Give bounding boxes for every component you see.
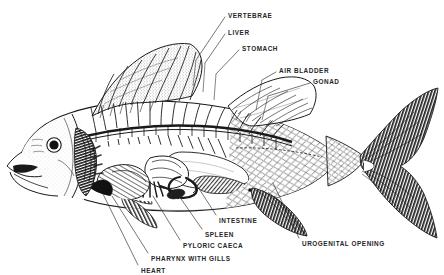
label-pyloric-caeca: PYLORIC CAECA [183, 243, 243, 249]
fish-body-group [7, 17, 438, 265]
pupil [49, 140, 58, 149]
label-liver: LIVER [228, 30, 250, 36]
caudal-fin [360, 88, 438, 238]
caudal-peduncle [326, 136, 366, 186]
label-vertebrae: VERTEBRAE [228, 13, 272, 19]
label-spleen: SPLEEN [205, 232, 234, 238]
leader-vertebrae [196, 17, 225, 60]
fish-anatomy-figure: VERTEBRAE LIVER STOMACH AIR BLADDER GONA… [0, 0, 444, 275]
label-pharynx-with-gills: PHARYNX WITH GILLS [151, 256, 231, 262]
label-stomach: STOMACH [242, 46, 278, 52]
leader-liver [205, 34, 225, 63]
leader-stomach [216, 50, 239, 74]
label-air-bladder: AIR BLADDER [279, 68, 329, 74]
soft-dorsal-fin [228, 77, 316, 126]
label-urogenital-opening: UROGENITAL OPENING [302, 241, 385, 247]
label-heart: HEART [141, 268, 166, 274]
label-intestine: INTESTINE [219, 218, 257, 224]
head [7, 113, 84, 200]
label-gonad: GONAD [313, 79, 340, 85]
leader-air-bladder [262, 72, 276, 80]
urogenital-opening-marker [248, 188, 252, 192]
